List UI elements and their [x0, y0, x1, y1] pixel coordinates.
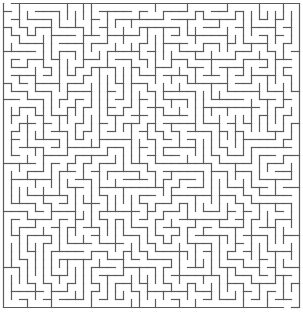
maze-walls	[0, 0, 303, 314]
maze-board[interactable]: Maze puzzle	[0, 0, 303, 314]
